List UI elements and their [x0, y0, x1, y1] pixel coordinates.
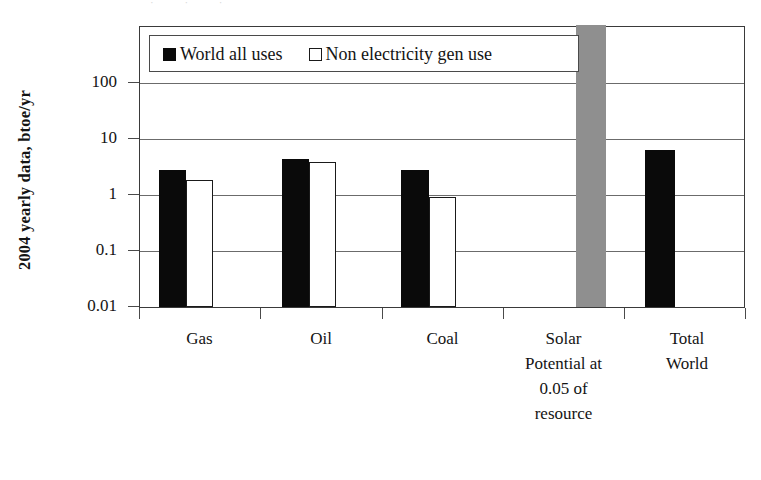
gridline-100	[140, 83, 744, 84]
y-tick-mark-0-01	[128, 306, 139, 307]
legend-swatch-filled-square-icon	[163, 48, 176, 61]
bar-solar-potential-world-all-uses	[576, 25, 606, 307]
x-label-solar-line-1: Solar	[498, 326, 629, 351]
bar-oil-non-electricity-gen-use	[309, 162, 336, 307]
y-tick-label-10: 10	[100, 128, 117, 147]
x-label-solar-line-3: 0.05 of	[498, 376, 629, 401]
y-tick-label-100: 100	[92, 72, 118, 91]
bar-coal-world-all-uses	[401, 170, 429, 307]
y-tick-mark-10	[128, 138, 139, 139]
x-label-oil: Oil	[260, 326, 382, 351]
x-tick-gas-oil	[260, 308, 261, 319]
x-tick-start	[139, 308, 140, 319]
y-tick-label-1: 1	[109, 184, 118, 203]
x-label-solar-line-2: Potential at	[498, 351, 629, 376]
x-label-gas: Gas	[139, 326, 260, 351]
y-tick-mark-100	[128, 82, 139, 83]
legend-label-world-all-uses: World all uses	[180, 45, 283, 63]
bar-oil-world-all-uses	[282, 159, 309, 307]
x-tick-oil-coal	[382, 308, 383, 319]
x-tick-end	[745, 308, 746, 319]
x-label-total-line-1: Total	[629, 326, 745, 351]
bar-coal-non-electricity-gen-use	[429, 197, 456, 307]
legend-swatch-open-square-icon	[309, 48, 322, 61]
bar-gas-world-all-uses	[159, 170, 186, 307]
legend-item-world-all-uses: World all uses	[163, 45, 283, 63]
legend-item-non-electricity-gen-use: Non electricity gen use	[309, 45, 492, 63]
y-tick-mark-1	[128, 194, 139, 195]
x-label-total-world: Total World	[629, 326, 745, 376]
x-tick-solar-total	[624, 308, 625, 319]
legend-label-non-electricity-gen-use: Non electricity gen use	[326, 45, 492, 63]
bar-total-world-world-all-uses	[645, 150, 675, 307]
y-tick-label-0-01: 0.01	[87, 296, 117, 315]
bar-gas-non-electricity-gen-use	[186, 180, 213, 307]
x-label-total-line-2: World	[629, 351, 745, 376]
x-label-solar-line-4: resource	[498, 401, 629, 426]
x-tick-coal-solar	[503, 308, 504, 319]
chart-figure: · · · 2004 yearly data, btoe/yr 100 10 1…	[0, 0, 761, 480]
x-label-solar-potential: Solar Potential at 0.05 of resource	[498, 326, 629, 426]
gridline-10	[140, 139, 744, 140]
y-axis-ticks: 100 10 1 0.1 0.01	[0, 0, 139, 282]
x-label-coal: Coal	[382, 326, 503, 351]
scan-top-artifact-text: · · ·	[150, 0, 750, 8]
y-tick-mark-0-1	[128, 250, 139, 251]
chart-legend: World all uses Non electricity gen use	[149, 35, 579, 72]
plot-area: World all uses Non electricity gen use	[139, 26, 745, 308]
y-tick-label-0-1: 0.1	[96, 240, 117, 259]
